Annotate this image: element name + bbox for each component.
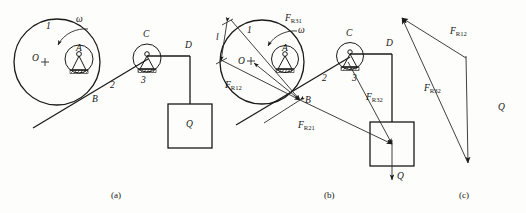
pivot-c-support-a (133, 44, 161, 72)
label-load-q-c: Q (498, 103, 505, 113)
label-link3-b: 3 (352, 74, 357, 84)
center-o-marker-b (247, 57, 255, 65)
force-r12-vector-b (221, 60, 300, 100)
follower-link2-b (236, 57, 350, 125)
label-force-r12-b: FR12 (225, 81, 242, 91)
label-pivot-c-b: C (346, 29, 352, 39)
caption-panel-b: (b) (324, 190, 335, 200)
force-r12-polygon-c (402, 18, 466, 58)
omega-arrow-a (58, 29, 88, 45)
label-dimension-l-b: l (216, 33, 219, 43)
label-load-q-b: Q (397, 172, 404, 182)
label-link1-a: 1 (46, 22, 51, 32)
label-center-o-b: O (238, 57, 245, 67)
force-q-polygon-c (466, 56, 468, 163)
label-center-o-a: O (32, 54, 39, 64)
label-point-d-a: D (185, 41, 192, 51)
label-point-d-b: D (386, 39, 393, 49)
panel-b-drawing (216, 19, 414, 180)
label-force-r32-b: FR32 (366, 93, 383, 103)
label-omega-b: ω (298, 26, 305, 36)
label-pivot-a-a: A (76, 44, 82, 54)
label-contact-b-b: B (305, 96, 311, 106)
label-pivot-c-a: C (143, 30, 149, 40)
label-force-r21-b: FR21 (298, 121, 315, 131)
follower-link2-a (33, 59, 148, 128)
label-contact-b-a: B (92, 95, 98, 105)
label-link3-a: 3 (141, 76, 146, 86)
figure-drawing (0, 0, 526, 213)
caption-panel-c: (c) (459, 190, 469, 200)
label-link2-a: 2 (110, 81, 115, 91)
label-force-r32-c: FR32 (424, 84, 441, 94)
label-link2-b: 2 (322, 74, 327, 84)
caption-panel-a: (a) (111, 190, 121, 200)
label-pivot-a-b: A (282, 44, 288, 54)
label-omega-a: ω (76, 15, 83, 25)
label-load-q-a: Q (186, 120, 193, 130)
center-o-marker-a (41, 58, 49, 66)
cam-circle-a (14, 19, 100, 105)
label-link1-b: 1 (247, 26, 252, 36)
figure-container: 1 ω O A C 2 3 B D Q l 1 FR31 ω O A FR12 … (0, 0, 526, 213)
label-force-r31-b: FR31 (285, 14, 302, 24)
label-force-r12-c: FR12 (450, 27, 467, 37)
